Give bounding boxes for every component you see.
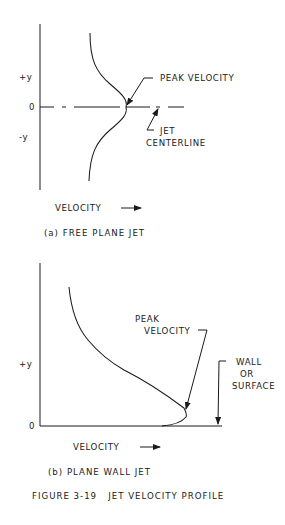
x-axis-label: VELOCITY bbox=[73, 442, 120, 452]
panel-b-subtitle: (b) PLANE WALL JET bbox=[48, 467, 151, 477]
wall-label-1: WALL bbox=[236, 357, 262, 367]
y-label-plus: +y bbox=[19, 359, 33, 369]
y-label-zero: 0 bbox=[29, 102, 35, 112]
peak-label-2: VELOCITY bbox=[144, 326, 191, 336]
y-label-minus: -y bbox=[19, 132, 28, 142]
centerline-leader-arrow bbox=[147, 109, 158, 130]
peak-velocity-leader-arrow bbox=[186, 330, 207, 409]
panel-a-free-plane-jet: +y 0 -y PEAK VELOCITY JET CENTERLINE VEL… bbox=[19, 24, 234, 238]
peak-velocity-leader-arrow bbox=[127, 78, 153, 105]
y-label-plus: +y bbox=[19, 72, 33, 82]
centerline-label-1: JET bbox=[159, 126, 175, 136]
centerline-label-2: CENTERLINE bbox=[146, 138, 206, 148]
panel-a-subtitle: (a) FREE PLANE JET bbox=[44, 228, 145, 238]
y-label-zero: 0 bbox=[29, 421, 35, 431]
jet-velocity-figure: +y 0 -y PEAK VELOCITY JET CENTERLINE VEL… bbox=[0, 0, 285, 525]
x-axis-label: VELOCITY bbox=[55, 203, 102, 213]
peak-label-1: PEAK bbox=[135, 314, 160, 324]
wall-leader-arrow bbox=[218, 361, 226, 424]
panel-b-plane-wall-jet: +y 0 PEAK VELOCITY WALL OR SURFACE VELOC… bbox=[19, 263, 275, 477]
wall-jet-profile-curve bbox=[69, 287, 186, 426]
wall-label-2: OR bbox=[240, 369, 254, 379]
peak-velocity-label: PEAK VELOCITY bbox=[160, 73, 234, 83]
figure-caption: FIGURE 3-19 JET VELOCITY PROFILE bbox=[32, 491, 224, 501]
wall-label-3: SURFACE bbox=[232, 381, 275, 391]
